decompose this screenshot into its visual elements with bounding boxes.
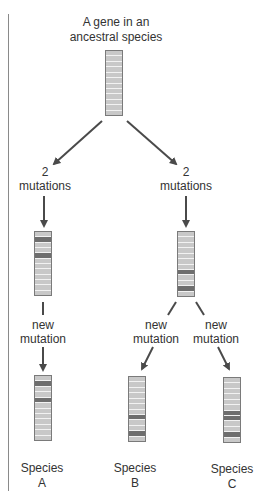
gene-band [35, 291, 51, 295]
left-mutation-count: 2 [42, 165, 49, 179]
left-mutation-label: mutations [19, 179, 71, 193]
right-mutation-label: mutations [160, 179, 212, 193]
species-c-letter: C [228, 477, 237, 491]
species-a-letter: A [38, 476, 46, 490]
gene-intermediate-right [177, 231, 195, 297]
species-b-letter: B [131, 476, 139, 490]
gene-band [129, 437, 145, 441]
gene-band [224, 438, 240, 442]
gene-band [35, 436, 51, 440]
new-mutation-b-line1: new [145, 318, 167, 332]
species-a-label: Species [21, 461, 64, 475]
arrow-species-b [142, 347, 153, 369]
line-new-mutation-b [168, 302, 176, 315]
new-mutation-b-line2: mutation [133, 332, 179, 346]
gene-species-a [34, 375, 52, 441]
species-c-label: Species [211, 462, 254, 476]
new-mutation-c-line2: mutation [193, 332, 239, 346]
gene-band [178, 292, 194, 296]
new-mutation-c-line1: new [205, 318, 227, 332]
arrow-to-right-branch [127, 121, 176, 164]
right-mutation-count: 2 [183, 165, 190, 179]
new-mutation-a-line2: mutation [20, 332, 66, 346]
species-b-label: Species [114, 461, 157, 475]
gene-species-c [223, 377, 241, 443]
new-mutation-a-line1: new [32, 318, 54, 332]
gene-intermediate-left [34, 231, 52, 296]
gene-species-b [128, 376, 146, 442]
line-new-mutation-c [196, 302, 204, 315]
arrow-species-c [218, 347, 229, 369]
arrow-to-left-branch [54, 121, 102, 164]
